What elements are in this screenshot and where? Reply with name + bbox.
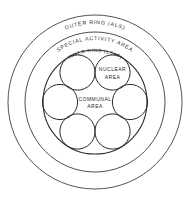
outer-ring-circle: [8, 15, 182, 189]
outer-ring-label: OUTER RING (ALS): [64, 19, 127, 31]
diagram-canvas: OUTER RING (ALS) SPECIAL ACTIVITY AREA I…: [0, 0, 192, 204]
communal-area-label-line1: COMMUNAL: [78, 96, 111, 102]
petal-circle-lower-right: [95, 114, 130, 149]
nuclear-area-label-line2: AREA: [105, 74, 121, 80]
inner-ring-circle: [43, 50, 147, 154]
nuclear-area-label-line1: NUCLEAR: [99, 66, 126, 72]
petal-circle-left: [42, 84, 77, 119]
concentric-ring-plan-svg: OUTER RING (ALS) SPECIAL ACTIVITY AREA I…: [0, 0, 192, 204]
communal-area-label-line2: AREA: [87, 103, 103, 109]
inner-ring-label: INNER RING (LSAT): [67, 48, 123, 60]
